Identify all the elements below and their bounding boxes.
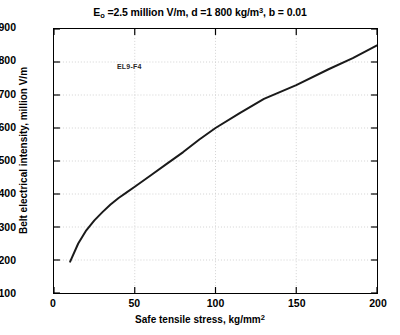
chart-figure: Eo =2.5 million V/m, d =1 800 kg/m3, b =…	[0, 0, 400, 335]
plot-svg	[54, 29, 377, 293]
y-tick-label: 500	[0, 154, 16, 166]
y-tick-label: 900	[0, 21, 16, 33]
data-series-line	[70, 46, 377, 262]
x-axis-title: Safe tensile stress, kg/mm2	[0, 313, 400, 325]
x-tick-label: 50	[114, 297, 154, 309]
x-tick-label: 200	[358, 297, 398, 309]
title-tail-text: , b = 0.01	[263, 6, 307, 18]
x-axis-title-text: Safe tensile stress, kg/mm	[135, 314, 261, 325]
x-tick-label: 150	[277, 297, 317, 309]
y-tick-label: 400	[0, 187, 16, 199]
x-tick-label: 0	[33, 297, 73, 309]
x-axis-title-superscript: 2	[261, 313, 265, 322]
chart-title: Eo =2.5 million V/m, d =1 800 kg/m3, b =…	[0, 6, 400, 20]
y-tick-label: 600	[0, 121, 16, 133]
series-annotation-label: EL9-F4	[117, 63, 142, 70]
title-middle-text: =2.5 million V/m, d =1 800 kg/m	[105, 6, 259, 18]
plot-area: EL9-F4	[53, 28, 378, 294]
y-tick-label: 800	[0, 54, 16, 66]
y-tick-label: 700	[0, 88, 16, 100]
y-axis-title: Belt electrical intensity, million V/m	[18, 51, 29, 251]
x-tick-label: 100	[196, 297, 236, 309]
y-tick-label: 100	[0, 287, 16, 299]
y-tick-label: 200	[0, 254, 16, 266]
y-tick-label: 300	[0, 221, 16, 233]
